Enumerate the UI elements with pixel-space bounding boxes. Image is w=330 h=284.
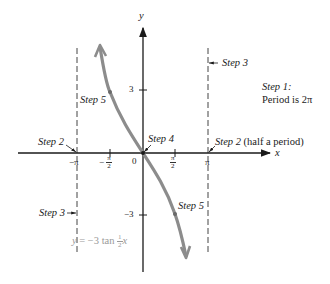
step1-text: Period is 2π	[262, 95, 312, 106]
equation-label: y = −3 tan 12x	[72, 234, 127, 249]
step1-title: Step 1:	[262, 82, 291, 93]
x-tick-neg-pi: −π	[69, 158, 79, 167]
x-axis-label: x	[275, 148, 280, 159]
step3-bottom-label: Step 3	[39, 208, 65, 219]
step2-left-label: Step 2	[38, 137, 64, 148]
origin-label: 0	[132, 157, 137, 166]
step3-top-label: Step 3	[222, 58, 248, 69]
step5-top-label: Step 5	[80, 95, 106, 106]
step2-right-label: Step 2 (half a period)	[215, 137, 304, 148]
y-tick-3: 3	[129, 85, 134, 94]
step5-bottom-label: Step 5	[178, 201, 204, 212]
step4-label: Step 4	[148, 134, 174, 145]
y-tick-neg-3: −3	[124, 210, 134, 219]
x-tick-half-pi: π2	[170, 155, 176, 170]
x-tick-pi: π	[205, 158, 210, 167]
y-axis-label: y	[139, 11, 144, 22]
x-tick-neg-half-pi: − π2	[99, 155, 112, 170]
